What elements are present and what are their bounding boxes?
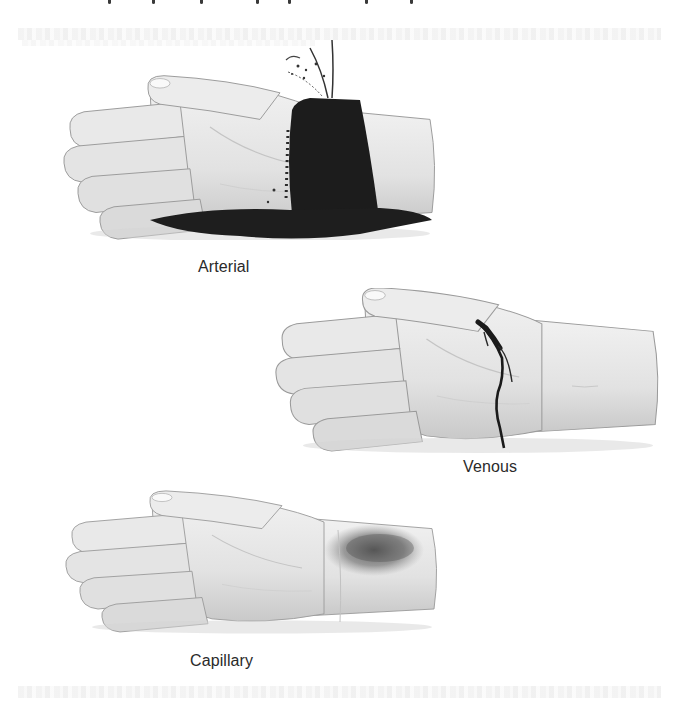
- clipped-text-descenders: [60, 0, 480, 5]
- venous-caption: Venous: [463, 458, 517, 476]
- arterial-caption: Arterial: [198, 258, 249, 276]
- arterial-bleeding-illustration: [60, 30, 440, 240]
- capillary-caption: Capillary: [190, 652, 253, 670]
- venous-bleeding-illustration: [272, 288, 662, 458]
- show-through-text-band: [18, 686, 661, 698]
- capillary-bleeding-illustration: [62, 490, 452, 640]
